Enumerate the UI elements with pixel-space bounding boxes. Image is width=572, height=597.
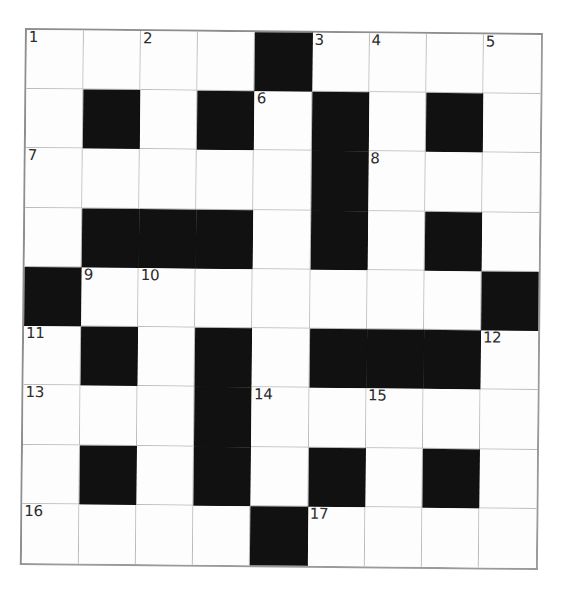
grid-cell[interactable]: [423, 389, 481, 449]
grid-cell[interactable]: 2: [141, 31, 199, 91]
grid-cell[interactable]: 16: [22, 504, 80, 564]
grid-cell-block: [81, 327, 139, 387]
grid-cell[interactable]: [482, 212, 540, 272]
grid-cell-block: [195, 328, 253, 388]
grid-cell[interactable]: 6: [254, 91, 312, 151]
grid-cell-block: [366, 329, 424, 389]
grid-cell[interactable]: [84, 31, 142, 91]
grid-cell[interactable]: [365, 448, 423, 508]
grid-cell[interactable]: [424, 271, 482, 331]
grid-cell[interactable]: [482, 153, 540, 213]
cell-number: 16: [24, 503, 43, 519]
grid-cell[interactable]: [253, 210, 311, 270]
grid-cell-block: [82, 208, 140, 268]
grid-cell[interactable]: [79, 504, 137, 564]
grid-cell[interactable]: 1: [26, 30, 84, 90]
grid-cell[interactable]: [479, 508, 537, 568]
grid-cell-block: [250, 506, 308, 566]
grid-cell[interactable]: 11: [24, 326, 82, 386]
grid-cell[interactable]: [82, 149, 140, 209]
grid-cell[interactable]: 10: [138, 268, 196, 328]
grid-cell[interactable]: [368, 93, 426, 153]
grid-cell-block: [24, 267, 82, 327]
grid-cell-block: [197, 91, 255, 151]
cell-number: 6: [257, 90, 266, 106]
grid-cell[interactable]: 15: [366, 389, 424, 449]
grid-cell[interactable]: 17: [307, 507, 365, 567]
grid-cell-block: [139, 209, 197, 269]
cell-number: 2: [143, 30, 152, 46]
cell-number: 11: [26, 325, 45, 341]
grid-cell[interactable]: [367, 211, 425, 271]
grid-cell[interactable]: [80, 386, 138, 446]
grid-cell[interactable]: [426, 34, 484, 94]
grid-cell-block: [308, 447, 366, 507]
grid-cell-block: [310, 210, 368, 270]
grid-cell[interactable]: [253, 269, 311, 329]
grid-cell-block: [255, 32, 313, 92]
grid-cell[interactable]: [139, 150, 197, 210]
grid-cell-block: [83, 90, 141, 150]
grid-cell[interactable]: [425, 152, 483, 212]
grid-cell-block: [422, 448, 480, 508]
grid-cell-block: [481, 271, 539, 331]
grid-cell[interactable]: [140, 90, 198, 150]
grid-cell-block: [311, 151, 369, 211]
cell-number: 17: [310, 506, 329, 522]
grid-cell[interactable]: 4: [369, 33, 427, 93]
cell-number: 5: [486, 33, 495, 49]
grid-cell-block: [426, 93, 484, 153]
cell-number: 7: [28, 147, 37, 163]
grid-cell[interactable]: [483, 94, 541, 154]
cell-number: 4: [371, 32, 380, 48]
grid-cell[interactable]: 5: [483, 34, 541, 94]
grid-cell[interactable]: [197, 150, 255, 210]
grid-cell[interactable]: 8: [368, 152, 426, 212]
grid-cell-block: [424, 212, 482, 272]
grid-cell[interactable]: 3: [312, 33, 370, 93]
grid-cell[interactable]: 7: [25, 148, 83, 208]
grid-cell[interactable]: [193, 505, 251, 565]
grid-cell[interactable]: [480, 390, 538, 450]
grid-cell[interactable]: [254, 151, 312, 211]
grid-cell[interactable]: [367, 270, 425, 330]
grid-cell[interactable]: [310, 270, 368, 330]
grid-cell[interactable]: 9: [81, 267, 139, 327]
grid-cell[interactable]: [198, 32, 256, 92]
grid-cell[interactable]: [252, 328, 310, 388]
grid-cell[interactable]: [137, 446, 195, 506]
grid-cell[interactable]: 13: [23, 385, 81, 445]
grid-cell[interactable]: 14: [251, 388, 309, 448]
grid-cell[interactable]: [479, 449, 537, 509]
grid-cell[interactable]: 12: [480, 331, 538, 391]
grid-cell-block: [194, 446, 252, 506]
grid-cell[interactable]: [309, 388, 367, 448]
grid-cell[interactable]: [22, 445, 80, 505]
cell-number: 1: [29, 29, 38, 45]
grid-cell[interactable]: [251, 447, 309, 507]
cell-number: 3: [314, 32, 323, 48]
cell-number: 8: [370, 151, 379, 167]
cell-number: 15: [368, 388, 387, 404]
grid-cell-block: [194, 387, 252, 447]
grid-cell[interactable]: [25, 208, 83, 268]
grid-cell[interactable]: [136, 505, 194, 565]
grid-cell-block: [311, 92, 369, 152]
grid-cell-block: [309, 329, 367, 389]
cell-number: 13: [25, 384, 44, 400]
cell-number: 10: [141, 267, 160, 283]
grid-cell[interactable]: [137, 386, 195, 446]
grid-cell-block: [80, 445, 138, 505]
grid-cell[interactable]: [195, 269, 253, 329]
cell-number: 14: [254, 387, 273, 403]
cell-number: 12: [483, 330, 502, 346]
grid-cell[interactable]: [365, 507, 423, 567]
crossword-page: 1234567891011121314151617: [0, 0, 572, 597]
grid-cell-block: [196, 209, 254, 269]
grid-cell[interactable]: [26, 89, 84, 149]
grid-cell[interactable]: [138, 327, 196, 387]
cell-number: 9: [84, 266, 93, 282]
crossword-grid[interactable]: 1234567891011121314151617: [20, 28, 543, 570]
grid-cell-block: [423, 330, 481, 390]
grid-cell[interactable]: [422, 508, 480, 568]
